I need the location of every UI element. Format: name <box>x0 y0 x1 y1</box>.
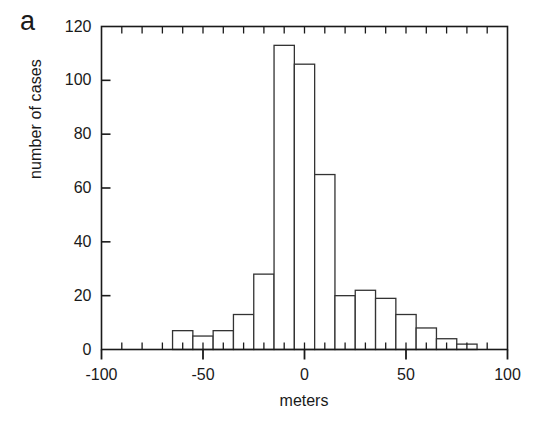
x-axis-tick-label: -50 <box>173 367 233 383</box>
x-axis-tick-label: 100 <box>478 367 538 383</box>
histogram-bar <box>355 290 375 349</box>
histogram-bar <box>315 175 335 350</box>
y-axis-tick-label: 120 <box>44 19 92 35</box>
bars-group <box>173 45 478 349</box>
histogram-bar <box>294 64 314 349</box>
y-axis-tick-label: 0 <box>44 342 92 358</box>
histogram-bar <box>376 298 396 349</box>
y-axis-tick-label: 60 <box>44 180 92 196</box>
y-axis-tick-label: 20 <box>44 288 92 304</box>
y-axis-tick-label: 80 <box>44 126 92 142</box>
histogram-figure: a number of cases meters 020406080100120… <box>0 0 549 428</box>
x-axis-tick-label: -100 <box>72 367 132 383</box>
y-axis-tick-label: 40 <box>44 234 92 250</box>
histogram-bar <box>254 274 274 349</box>
histogram-bar <box>335 296 355 350</box>
x-axis-tick-label: 0 <box>275 367 335 383</box>
histogram-bar <box>274 45 294 349</box>
x-axis-tick-label: 50 <box>376 367 436 383</box>
plot-area <box>0 0 549 428</box>
y-axis-tick-label: 100 <box>44 72 92 88</box>
